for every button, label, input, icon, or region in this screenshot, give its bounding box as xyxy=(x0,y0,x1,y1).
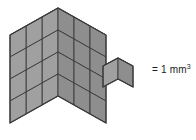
legend-label: = 1 mm3 xyxy=(152,64,191,75)
legend-unit: mm xyxy=(170,64,187,75)
figure-root: = 1 mm3 xyxy=(0,0,196,140)
legend-exponent: 3 xyxy=(187,63,191,70)
